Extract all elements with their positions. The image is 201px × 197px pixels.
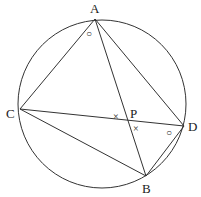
circumcircle [18, 20, 186, 188]
segment-CD [20, 109, 184, 126]
angle-mark-cross-left: × [113, 111, 119, 122]
angle-mark-circle-D: ○ [166, 127, 172, 138]
angle-mark-circle-A: ○ [86, 28, 92, 39]
label-D: D [188, 119, 197, 134]
segment-BD [146, 126, 184, 176]
cyclic-quadrilateral-diagram: A B C D P ○ ○ × × [0, 0, 201, 197]
label-P: P [130, 106, 137, 121]
label-B: B [142, 181, 151, 196]
label-C: C [6, 106, 15, 121]
segment-AD [95, 19, 184, 126]
angle-mark-cross-right: × [133, 123, 139, 134]
label-A: A [90, 1, 100, 16]
